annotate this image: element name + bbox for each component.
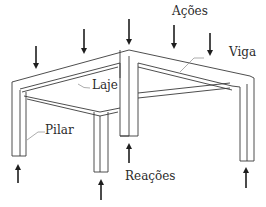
label-laje: Laje (92, 79, 118, 91)
structural-frame-diagram: Ações Viga Laje Pilar Reações (0, 0, 266, 207)
label-acoes: Ações (172, 5, 208, 17)
leader-laje (78, 84, 90, 88)
slab-and-beams (12, 50, 250, 116)
label-viga: Viga (229, 46, 256, 58)
label-reacoes: Reações (125, 170, 176, 182)
column-front (94, 112, 108, 172)
label-pilar: Pilar (45, 124, 74, 136)
column-left (12, 82, 26, 156)
leader-pilar (27, 132, 45, 140)
columns (12, 50, 254, 172)
load-arrows (36, 19, 210, 66)
